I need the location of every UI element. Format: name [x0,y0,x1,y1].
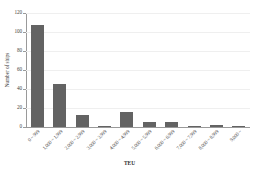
y-axis-tick-label: 100 [15,29,22,34]
bar [232,126,245,127]
bar-slot [228,13,250,127]
y-axis-tick-label: 40 [17,86,22,91]
bar [120,112,133,127]
bar-slot [205,13,227,127]
y-axis-title: Number of ships [5,53,10,88]
bar-slot [93,13,115,127]
bar-slot [26,13,48,127]
bar [143,122,156,127]
y-axis-title-wrapper: Number of ships [3,13,13,127]
x-axis-tick-label: 9,000 ~ [229,129,243,143]
bar-chart: Number of ships 020406080100120 0 ~ 9991… [0,0,259,171]
x-label-slot: 9,000 ~ [228,128,250,158]
y-axis-tick-label: 80 [17,48,22,53]
y-axis-tick-label: 60 [17,67,22,72]
y-axis-tick-label: 0 [20,124,23,129]
y-axis-tick-label: 120 [15,10,22,15]
bar [76,115,89,127]
bar [53,84,66,127]
bar-slot [160,13,182,127]
bar-slot [48,13,70,127]
bar [188,126,201,127]
bar-series [26,13,250,127]
x-axis-tick-label: 0 ~ 999 [27,129,41,143]
x-label-slot: 8,000 ~ 8,999 [205,128,227,158]
x-axis-tick-labels: 0 ~ 9991,000 ~ 1,9992,000 ~ 2,9993,000 ~… [26,128,250,158]
bar-slot [183,13,205,127]
bar-slot [138,13,160,127]
y-axis-tick-label: 20 [17,105,22,110]
bar [165,122,178,127]
bar-slot [71,13,93,127]
bar [98,126,111,127]
x-axis-title: TEU [0,160,259,166]
bar [31,25,44,127]
bar-slot [116,13,138,127]
bar [210,125,223,127]
